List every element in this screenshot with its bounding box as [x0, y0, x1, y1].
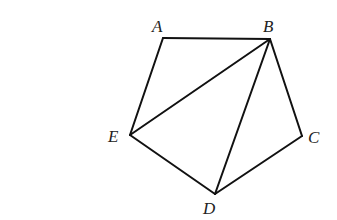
vertex-label-c: C — [308, 128, 320, 147]
side-ab — [163, 38, 270, 39]
vertex-label-d: D — [202, 199, 216, 218]
side-ea — [130, 38, 163, 135]
side-cd — [215, 136, 302, 194]
vertex-label-b: B — [263, 17, 274, 36]
diagonal-bd — [215, 39, 270, 194]
vertex-label-e: E — [107, 127, 119, 146]
vertex-label-a: A — [151, 17, 163, 36]
side-de — [130, 135, 215, 194]
edges-group — [130, 38, 302, 194]
side-bc — [270, 39, 302, 136]
diagonal-be — [130, 39, 270, 135]
vertex-labels-group: A B C D E — [107, 17, 320, 218]
pentagon-diagram: A B C D E — [0, 0, 337, 220]
